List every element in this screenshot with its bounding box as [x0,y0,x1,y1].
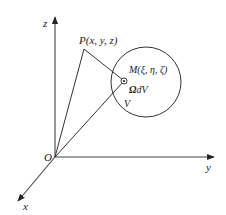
x-axis-label: x [22,200,28,212]
line-p-to-m [84,49,123,80]
dv-symbol: dV [136,84,149,95]
volume-element-label: ΩdV [129,84,149,95]
point-m-label: M(ξ, η, ζ) [128,64,168,76]
point-p-label: P(x, y, z) [78,34,118,47]
point-m-dot [123,80,125,82]
z-axis-label: z [42,17,48,29]
y-axis-label: y [205,161,211,173]
origin-label: O [44,151,52,163]
coordinate-diagram: z y x O P(x, y, z) M(ξ, η, ζ) ΩdV V [0,0,226,215]
x-axis [18,157,55,201]
region-v-label: V [124,98,132,109]
